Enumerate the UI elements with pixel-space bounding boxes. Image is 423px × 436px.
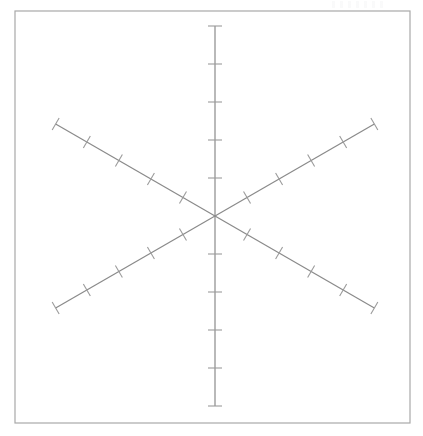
descending-diagonal-axis-tick-3-pos <box>308 265 315 277</box>
descending-diagonal-axis-tick-2-neg <box>147 173 154 185</box>
ascending-diagonal-axis-tick-2-neg <box>147 247 154 259</box>
ascending-diagonal-axis-tick-1-pos <box>244 191 251 203</box>
figure-root <box>0 0 423 436</box>
ascending-diagonal-axis-tick-5-neg <box>52 302 59 314</box>
descending-diagonal-axis-tick-4-neg <box>83 136 90 148</box>
descending-diagonal-axis-tick-1-neg <box>179 191 186 203</box>
ascending-diagonal-axis-tick-2-pos <box>276 173 283 185</box>
axes-group <box>52 26 378 406</box>
triaxial-diagram-canvas <box>0 0 423 436</box>
ascending-diagonal-axis-tick-4-neg <box>83 284 90 296</box>
descending-diagonal-axis-tick-2-pos <box>276 247 283 259</box>
ascending-diagonal-axis-tick-4-pos <box>340 136 347 148</box>
ascending-diagonal-axis-tick-1-neg <box>179 228 186 240</box>
ascending-diagonal-axis-tick-3-neg <box>115 265 122 277</box>
ascending-diagonal-axis-tick-3-pos <box>308 154 315 166</box>
descending-diagonal-axis-tick-1-pos <box>244 228 251 240</box>
descending-diagonal-axis-tick-5-pos <box>371 302 378 314</box>
descending-diagonal-axis-tick-5-neg <box>52 118 59 130</box>
descending-diagonal-axis-tick-4-pos <box>340 284 347 296</box>
descending-diagonal-axis-tick-3-neg <box>115 154 122 166</box>
ascending-diagonal-axis-tick-5-pos <box>371 118 378 130</box>
